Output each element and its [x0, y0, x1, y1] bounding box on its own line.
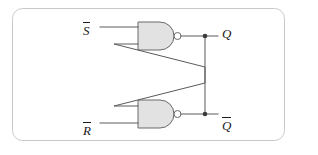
input-label-r-bar-text: R [83, 122, 91, 137]
output-label-q-text: Q [222, 26, 231, 41]
nand-gate-bottom-output-bubble [174, 111, 181, 118]
output-label-q: Q [222, 27, 231, 40]
nand-gate-top-output-bubble [174, 33, 181, 40]
circuit-schematic [0, 0, 318, 155]
output-label-q-bar: Q [222, 117, 231, 132]
input-label-s-bar-text: S [83, 22, 90, 37]
output-label-q-bar-text: Q [222, 117, 231, 132]
junction-dot-q-bar [203, 112, 208, 117]
nand-gate-top-body [138, 22, 174, 50]
junction-dot-q [203, 34, 208, 39]
logic-diagram-figure: S R Q Q [0, 0, 318, 155]
input-label-r-bar: R [83, 122, 91, 137]
input-label-s-bar: S [83, 22, 90, 37]
nand-gate-bottom-body [138, 100, 174, 128]
